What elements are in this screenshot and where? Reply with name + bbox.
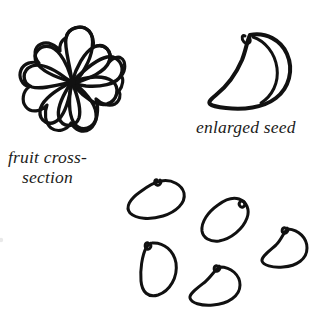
caption-fruit-cross-section-line-2: section [8, 168, 87, 188]
caption-fruit-cross-section: fruit cross- section [8, 148, 87, 187]
caption-enlarged-seed: enlarged seed [196, 118, 296, 138]
caption-fruit-cross-section-line-1: fruit cross- [8, 147, 87, 167]
fruit-center-point [68, 78, 75, 85]
botanical-illustration: fruit cross- section enlarged seed [0, 0, 325, 312]
